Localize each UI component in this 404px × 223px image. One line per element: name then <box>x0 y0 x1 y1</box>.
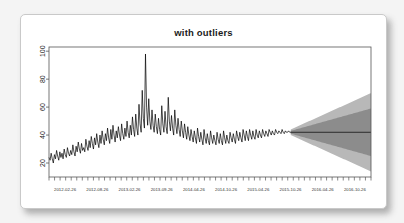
x-tick-label: 2015-10-26 <box>280 187 303 192</box>
x-tick-label: 2014-10-26 <box>215 187 238 192</box>
x-tick-label: 2015-04-26 <box>247 187 270 192</box>
x-tick-label: 2016-10-26 <box>344 187 367 192</box>
y-tick-label: 40 <box>39 131 46 139</box>
observed-series-line <box>49 54 291 163</box>
plot-frame <box>49 47 371 177</box>
y-tick-label: 60 <box>39 103 46 111</box>
x-tick-label: 2013-09-26 <box>151 187 174 192</box>
x-tick-label: 2012-08-26 <box>86 187 109 192</box>
x-tick-label: 2016-04-26 <box>312 187 335 192</box>
y-tick-label: 80 <box>39 75 46 83</box>
chart-card: with outliers 204060801002012-02-262012-… <box>20 14 387 209</box>
x-tick-label: 2014-04-26 <box>183 187 206 192</box>
x-tick-label: 2013-02-26 <box>119 187 142 192</box>
y-tick-label: 20 <box>39 159 46 167</box>
time-series-plot: 204060801002012-02-262012-08-262013-02-2… <box>21 15 386 208</box>
y-tick-label: 100 <box>39 45 46 57</box>
x-tick-label: 2012-02-26 <box>54 187 77 192</box>
